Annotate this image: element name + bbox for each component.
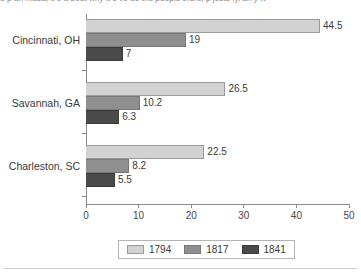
x-tick-label: 0 — [83, 210, 89, 222]
x-tick — [243, 204, 244, 208]
bar-value-label: 19 — [189, 33, 200, 47]
chart-page: e p an maca, it e a bout why it o ve ue … — [0, 0, 361, 276]
legend-label-1817: 1817 — [206, 244, 228, 256]
bar-value-label: 44.5 — [323, 19, 342, 33]
legend-swatch-icon-1817 — [184, 245, 201, 254]
plot-area: 01020304050 Cincinnati, OHSavannah, GACh… — [0, 14, 361, 204]
clipped-caption-text: e p an maca, it e a bout why it o ve ue … — [0, 0, 361, 3]
bar-value-label: 8.2 — [132, 159, 146, 173]
x-tick — [86, 204, 87, 208]
category-label: Cincinnati, OH — [12, 34, 80, 46]
bar-1841-cincinnatioh — [86, 47, 123, 61]
bar-1794-savannahga — [86, 82, 225, 96]
legend-item-1817[interactable]: 1817 — [184, 244, 228, 256]
bar-1817-savannahga — [86, 96, 140, 110]
legend-label-1794: 1794 — [149, 244, 171, 256]
x-tick — [191, 204, 192, 208]
legend-swatch-icon-1841 — [242, 245, 259, 254]
legend-item-1794[interactable]: 1794 — [127, 244, 171, 256]
bar-value-label: 26.5 — [228, 82, 247, 96]
y-tick — [82, 196, 86, 197]
x-tick — [296, 204, 297, 208]
legend-item-1841[interactable]: 1841 — [242, 244, 286, 256]
chart-legend: 1794 1817 1841 — [118, 240, 295, 259]
bar-1817-charlestonsc — [86, 159, 129, 173]
bar-value-label: 7 — [126, 47, 132, 61]
x-tick-label: 30 — [238, 210, 249, 222]
footer-divider — [4, 268, 357, 269]
x-tick-label: 10 — [133, 210, 144, 222]
bar-value-label: 22.5 — [207, 145, 226, 159]
y-tick — [82, 70, 86, 71]
x-axis-line — [86, 204, 349, 205]
x-tick-label: 40 — [291, 210, 302, 222]
bar-1841-savannahga — [86, 110, 119, 124]
bar-value-label: 6.3 — [122, 110, 136, 124]
legend-label-1841: 1841 — [264, 244, 286, 256]
x-tick-label: 20 — [186, 210, 197, 222]
bar-1817-cincinnatioh — [86, 33, 186, 47]
category-label: Charleston, SC — [9, 160, 80, 172]
bar-1794-charlestonsc — [86, 145, 204, 159]
x-tick-label: 50 — [343, 210, 354, 222]
bar-value-label: 5.5 — [118, 173, 132, 187]
x-tick — [349, 204, 350, 208]
bar-1794-cincinnatioh — [86, 19, 320, 33]
y-tick — [82, 133, 86, 134]
category-label: Savannah, GA — [12, 97, 80, 109]
bar-value-label: 10.2 — [143, 96, 162, 110]
x-tick — [138, 204, 139, 208]
legend-swatch-icon-1794 — [127, 245, 144, 254]
bar-1841-charlestonsc — [86, 173, 115, 187]
